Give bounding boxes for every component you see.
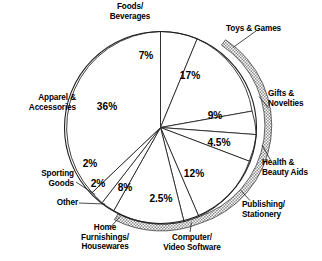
value-publishing-stationery: 12% [177, 168, 211, 179]
label-computer-video: Computer/ Video Software [145, 233, 239, 252]
label-toys-games: Toys & Games [226, 24, 318, 34]
value-foods-beverages: 7% [129, 50, 163, 61]
value-home-furnishings: 8% [110, 182, 140, 193]
label-publishing-stationery: Publishing/ Stationery [242, 200, 322, 219]
pie-chart-graphic [0, 0, 322, 261]
value-sporting-goods: 2% [76, 158, 104, 169]
value-computer-video: 2.5% [140, 193, 182, 204]
value-apparel-accessories: 36% [88, 101, 126, 112]
value-gifts-novelties: 9% [200, 110, 230, 121]
label-home-furnishings: Home Furnishings/ Housewares [62, 223, 148, 252]
label-apparel-accessories: Apparel & Accessories [2, 93, 76, 112]
label-sporting-goods: Sporting Goods [8, 169, 74, 188]
pie-chart-figure: Foods/ Beverages Toys & Games Gifts & No… [0, 0, 322, 261]
value-other: 2% [84, 178, 112, 189]
label-foods-beverages: Foods/ Beverages [86, 2, 174, 21]
label-gifts-novelties: Gifts & Novelties [268, 89, 322, 108]
value-health-beauty: 4.5% [198, 137, 240, 148]
label-health-beauty: Health & Beauty Aids [262, 158, 322, 177]
label-other: Other [20, 198, 78, 208]
value-toys-games: 17% [173, 70, 207, 81]
